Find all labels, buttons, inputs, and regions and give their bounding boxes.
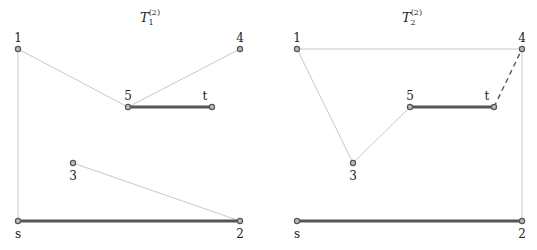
node-label-4: 4 [518,31,526,45]
edge-t-4 [494,49,522,107]
node-label-5: 5 [124,89,132,103]
edge-1-5 [18,49,128,107]
node-2 [237,218,242,223]
node-t [491,104,496,109]
node-t [209,104,214,109]
panel-title: T2(2) [402,8,422,27]
node-3 [350,160,355,165]
node-1 [15,46,20,51]
node-label-3: 3 [349,169,357,183]
node-s [294,218,299,223]
node-label-1: 1 [14,31,22,45]
node-5 [125,104,130,109]
node-4 [519,46,524,51]
node-label-2: 2 [236,227,244,241]
node-5 [407,104,412,109]
node-label-s: s [294,227,300,241]
panel-t1: T1(2)145t3s2 [14,8,244,241]
edge-1-3 [297,49,353,163]
node-4 [237,46,242,51]
node-3 [70,160,75,165]
node-label-2: 2 [518,227,526,241]
node-label-s: s [15,227,21,241]
edge-3-2 [73,163,240,221]
node-label-1: 1 [293,31,301,45]
edge-4-5 [128,49,240,107]
node-s [15,218,20,223]
panel-t2: T2(2)145t3s2 [293,8,526,241]
panel-title: T1(2) [140,8,160,27]
graph-canvas: T1(2)145t3s2 T2(2)145t3s2 [0,0,537,250]
node-1 [294,46,299,51]
node-label-4: 4 [236,31,244,45]
node-2 [519,218,524,223]
node-label-5: 5 [406,89,414,103]
node-label-t: t [203,89,208,103]
node-label-t: t [485,89,490,103]
node-label-3: 3 [69,169,77,183]
edge-3-5 [353,107,410,163]
